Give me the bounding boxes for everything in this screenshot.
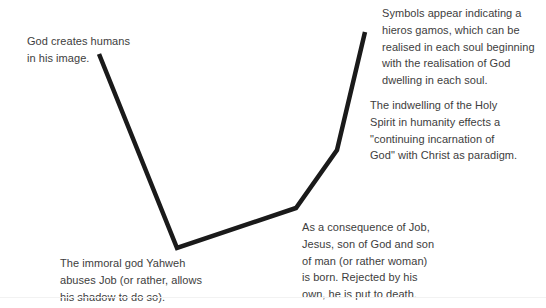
diagram-canvas: God creates humans in his image. Symbols… <box>0 0 546 308</box>
annotation-hieros-gamos: Symbols appear indicating a hieros gamos… <box>382 5 546 89</box>
bottom-divider <box>0 297 546 298</box>
annotation-creation: God creates humans in his image. <box>27 33 157 67</box>
annotation-jesus-birth-death: As a consequence of Job, Jesus, son of G… <box>302 219 452 303</box>
annotation-indwelling-holy-spirit: The indwelling of the Holy Spirit in hum… <box>370 97 534 164</box>
